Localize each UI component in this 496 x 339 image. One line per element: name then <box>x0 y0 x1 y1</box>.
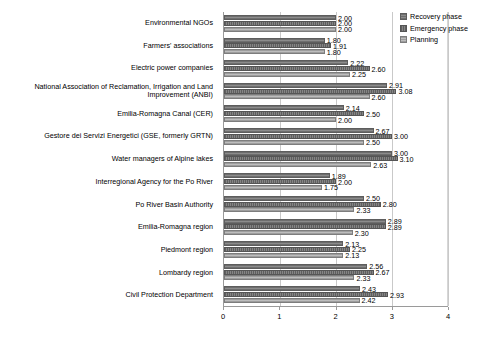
bar <box>224 94 370 99</box>
legend-label: Emergency phase <box>410 24 468 33</box>
bar-row: 2.43 <box>224 286 448 291</box>
category-label-text: Environmental NGOs <box>145 19 213 28</box>
legend-swatch-icon <box>400 13 407 20</box>
chart-legend: Recovery phaseEmergency phasePlanning <box>400 12 496 44</box>
legend-swatch-icon <box>400 25 407 32</box>
category-label-text: Emilia-Romagna region <box>138 223 213 232</box>
bar-row: 3.00 <box>224 134 448 139</box>
bar-row: 2.93 <box>224 292 448 297</box>
bar-row: 2.63 <box>224 162 448 167</box>
category-label-text: Gestore dei Servizi Energetici (GSE, for… <box>44 132 213 141</box>
bar <box>224 179 336 184</box>
bar <box>224 275 354 280</box>
bar <box>224 185 322 190</box>
bar-row: 2.56 <box>224 264 448 269</box>
bar <box>224 38 325 43</box>
x-tick-label: 3 <box>390 312 394 321</box>
bar-value-label: 2.00 <box>336 115 352 124</box>
bar-row: 2.89 <box>224 219 448 224</box>
legend-swatch-icon <box>400 36 407 43</box>
x-tick-mark <box>448 307 449 310</box>
x-tick-mark <box>223 307 224 310</box>
bar-row: 2.60 <box>224 94 448 99</box>
bar <box>224 298 360 303</box>
bar-value-label: 2.00 <box>336 25 352 34</box>
bar-row: 2.80 <box>224 202 448 207</box>
bar-group: 2.222.602.25 <box>224 57 448 80</box>
bar <box>224 128 374 133</box>
bar <box>224 72 350 77</box>
bar-group: 3.003.102.63 <box>224 148 448 171</box>
bar-row: 2.25 <box>224 247 448 252</box>
category-label-text: Farmers' associations <box>143 42 213 51</box>
bar <box>224 43 331 48</box>
x-tick-label: 1 <box>277 312 281 321</box>
legend-item[interactable]: Emergency phase <box>400 24 496 33</box>
bar-row: 2.33 <box>224 275 448 280</box>
bar-row: 2.13 <box>224 253 448 258</box>
legend-item[interactable]: Recovery phase <box>400 12 496 21</box>
x-tick-label: 4 <box>446 312 450 321</box>
bar-value-label: 1.75 <box>322 183 338 192</box>
bar-row: 2.89 <box>224 224 448 229</box>
category-label: Piedmont region <box>0 239 218 262</box>
category-label-text: National Association of Reclamation, Irr… <box>0 83 213 100</box>
bar-group: 2.502.802.33 <box>224 193 448 216</box>
category-label: Lombardy region <box>0 262 218 285</box>
bar-group: 2.132.252.13 <box>224 238 448 261</box>
category-label-text: Water managers of Alpine lakes <box>112 155 213 164</box>
bar-row: 2.13 <box>224 241 448 246</box>
bar-value-label: 2.60 <box>370 92 386 101</box>
bar <box>224 196 364 201</box>
category-label: Environmental NGOs <box>0 12 218 35</box>
category-label-text: Piedmont region <box>161 246 213 255</box>
category-label: Farmers' associations <box>0 35 218 58</box>
bar-row: 2.30 <box>224 230 448 235</box>
bar-value-label: 2.25 <box>350 70 366 79</box>
bar-row: 2.00 <box>224 117 448 122</box>
category-label: National Association of Reclamation, Irr… <box>0 80 218 103</box>
category-label: Civil Protection Department <box>0 284 218 307</box>
bar <box>224 60 348 65</box>
bar-row: 2.22 <box>224 60 448 65</box>
bar-row: 2.67 <box>224 128 448 133</box>
bar-value-label: 2.33 <box>354 273 370 282</box>
category-axis: Environmental NGOsFarmers' associationsE… <box>0 12 218 307</box>
bar-group: 2.913.082.60 <box>224 80 448 103</box>
bar-row: 3.10 <box>224 156 448 161</box>
bar <box>224 270 374 275</box>
bar <box>224 247 350 252</box>
bar-row: 3.08 <box>224 89 448 94</box>
category-label: Gestore dei Servizi Energetici (GSE, for… <box>0 125 218 148</box>
bar-value-label: 2.13 <box>343 251 359 260</box>
category-label-text: Civil Protection Department <box>126 291 213 300</box>
bar <box>224 162 371 167</box>
bar-group: 2.142.502.00 <box>224 102 448 125</box>
bar-row: 2.14 <box>224 105 448 110</box>
x-tick-label: 0 <box>221 312 225 321</box>
bar-row: 1.75 <box>224 185 448 190</box>
bar-value-label: 1.80 <box>325 47 341 56</box>
bar <box>224 83 387 88</box>
bar <box>224 241 343 246</box>
bar <box>224 105 344 110</box>
category-label: Emilia-Romagna Canal (CER) <box>0 103 218 126</box>
bar-row: 2.42 <box>224 298 448 303</box>
bar <box>224 151 392 156</box>
bar <box>224 140 364 145</box>
legend-label: Recovery phase <box>410 12 462 21</box>
bar-group: 2.562.672.33 <box>224 261 448 284</box>
x-tick-mark <box>336 307 337 310</box>
legend-item[interactable]: Planning <box>400 35 496 44</box>
category-label-text: Po River Basin Authority <box>135 201 213 210</box>
bar-chart: Environmental NGOsFarmers' associationsE… <box>0 0 496 339</box>
bar <box>224 49 325 54</box>
bar-row: 2.50 <box>224 140 448 145</box>
plot-area: 2.002.002.001.801.911.802.222.602.252.91… <box>223 12 448 307</box>
x-tick-mark <box>279 307 280 310</box>
bar-row: 2.25 <box>224 72 448 77</box>
bar-row: 1.80 <box>224 49 448 54</box>
bar-groups: 2.002.002.001.801.911.802.222.602.252.91… <box>224 12 448 306</box>
bar <box>224 15 336 20</box>
bar-value-label: 2.63 <box>371 160 387 169</box>
